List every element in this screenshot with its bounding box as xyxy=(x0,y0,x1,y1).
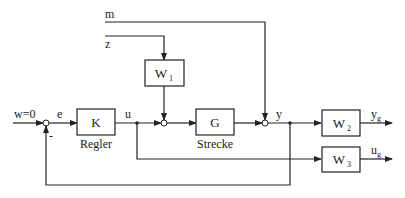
summing-junction-disturbance xyxy=(161,120,167,126)
disturbance-line xyxy=(105,36,164,60)
controller-symbol: K xyxy=(91,115,101,130)
disturbance-label: z xyxy=(105,37,110,51)
w3-symbol: W xyxy=(333,152,346,167)
yg-subscript: g xyxy=(377,114,381,123)
measurement-noise-label: m xyxy=(105,7,115,21)
w1-symbol: W xyxy=(155,66,168,81)
w2-symbol: W xyxy=(333,116,346,131)
plant-caption: Strecke xyxy=(197,137,233,151)
error-label: e xyxy=(57,107,62,121)
measurement-noise-line xyxy=(105,22,265,120)
control-label: u xyxy=(125,107,131,121)
block-diagram: w=0 - e K Regler u z W 1 G Strecke m y W… xyxy=(0,0,405,198)
feedback-sign: - xyxy=(49,129,53,143)
summing-junction-noise xyxy=(262,120,268,126)
ug-subscript: g xyxy=(377,150,381,159)
controller-caption: Regler xyxy=(80,137,112,151)
w1-subscript: 1 xyxy=(169,74,173,83)
plant-symbol: G xyxy=(210,115,219,130)
w3-subscript: 3 xyxy=(347,160,351,169)
output-label: y xyxy=(276,107,282,121)
summing-junction-error xyxy=(43,120,49,126)
w2-subscript: 2 xyxy=(347,124,351,133)
reference-label: w=0 xyxy=(14,107,35,121)
